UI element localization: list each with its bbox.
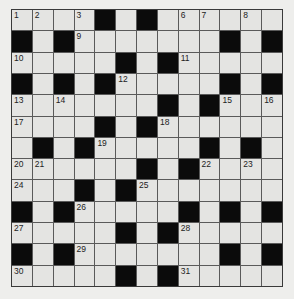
answer-cell[interactable] — [33, 31, 53, 51]
answer-cell[interactable] — [54, 223, 74, 243]
answer-cell[interactable] — [262, 159, 282, 179]
answer-cell[interactable] — [200, 31, 220, 51]
answer-cell[interactable] — [200, 202, 220, 222]
answer-cell[interactable]: 16 — [262, 95, 282, 115]
answer-cell[interactable] — [95, 266, 115, 286]
answer-cell[interactable] — [75, 117, 95, 137]
answer-cell[interactable] — [75, 95, 95, 115]
answer-cell[interactable] — [54, 53, 74, 73]
answer-cell[interactable] — [262, 180, 282, 200]
answer-cell[interactable] — [33, 74, 53, 94]
answer-cell[interactable]: 31 — [179, 266, 199, 286]
answer-cell[interactable] — [75, 266, 95, 286]
answer-cell[interactable] — [158, 31, 178, 51]
answer-cell[interactable] — [179, 95, 199, 115]
answer-cell[interactable] — [200, 74, 220, 94]
answer-cell[interactable] — [116, 95, 136, 115]
answer-cell[interactable] — [241, 202, 261, 222]
answer-cell[interactable] — [262, 53, 282, 73]
answer-cell[interactable] — [75, 74, 95, 94]
answer-cell[interactable] — [95, 180, 115, 200]
answer-cell[interactable] — [75, 159, 95, 179]
answer-cell[interactable] — [116, 117, 136, 137]
answer-cell[interactable] — [158, 180, 178, 200]
answer-cell[interactable]: 15 — [220, 95, 240, 115]
answer-cell[interactable]: 1 — [12, 10, 32, 30]
answer-cell[interactable]: 13 — [12, 95, 32, 115]
answer-cell[interactable] — [137, 244, 157, 264]
answer-cell[interactable] — [241, 53, 261, 73]
answer-cell[interactable] — [241, 95, 261, 115]
answer-cell[interactable] — [200, 266, 220, 286]
answer-cell[interactable] — [241, 74, 261, 94]
answer-cell[interactable] — [200, 117, 220, 137]
answer-cell[interactable] — [95, 31, 115, 51]
answer-cell[interactable] — [137, 74, 157, 94]
answer-cell[interactable] — [179, 244, 199, 264]
answer-cell[interactable] — [116, 31, 136, 51]
answer-cell[interactable] — [179, 138, 199, 158]
answer-cell[interactable] — [158, 159, 178, 179]
answer-cell[interactable] — [200, 53, 220, 73]
answer-cell[interactable]: 28 — [179, 223, 199, 243]
answer-cell[interactable] — [220, 10, 240, 30]
answer-cell[interactable]: 20 — [12, 159, 32, 179]
answer-cell[interactable] — [116, 244, 136, 264]
answer-cell[interactable] — [220, 53, 240, 73]
answer-cell[interactable] — [158, 138, 178, 158]
answer-cell[interactable]: 11 — [179, 53, 199, 73]
answer-cell[interactable]: 10 — [12, 53, 32, 73]
answer-cell[interactable]: 25 — [137, 180, 157, 200]
answer-cell[interactable] — [220, 138, 240, 158]
answer-cell[interactable] — [262, 138, 282, 158]
answer-cell[interactable]: 7 — [200, 10, 220, 30]
answer-cell[interactable] — [95, 159, 115, 179]
answer-cell[interactable] — [116, 159, 136, 179]
answer-cell[interactable] — [33, 180, 53, 200]
answer-cell[interactable]: 22 — [200, 159, 220, 179]
answer-cell[interactable] — [137, 266, 157, 286]
answer-cell[interactable] — [54, 266, 74, 286]
answer-cell[interactable]: 6 — [179, 10, 199, 30]
answer-cell[interactable] — [241, 117, 261, 137]
answer-cell[interactable] — [200, 223, 220, 243]
answer-cell[interactable]: 8 — [241, 10, 261, 30]
answer-cell[interactable]: 26 — [75, 202, 95, 222]
answer-cell[interactable] — [33, 223, 53, 243]
answer-cell[interactable] — [241, 180, 261, 200]
answer-cell[interactable] — [33, 117, 53, 137]
answer-cell[interactable] — [95, 244, 115, 264]
answer-cell[interactable] — [262, 10, 282, 30]
answer-cell[interactable]: 21 — [33, 159, 53, 179]
answer-cell[interactable] — [262, 117, 282, 137]
answer-cell[interactable]: 14 — [54, 95, 74, 115]
answer-cell[interactable]: 9 — [75, 31, 95, 51]
answer-cell[interactable] — [33, 266, 53, 286]
answer-cell[interactable]: 2 — [33, 10, 53, 30]
answer-cell[interactable] — [137, 138, 157, 158]
answer-cell[interactable] — [54, 138, 74, 158]
answer-cell[interactable] — [200, 244, 220, 264]
answer-cell[interactable] — [54, 159, 74, 179]
answer-cell[interactable]: 29 — [75, 244, 95, 264]
answer-cell[interactable]: 24 — [12, 180, 32, 200]
answer-cell[interactable] — [158, 202, 178, 222]
answer-cell[interactable] — [75, 53, 95, 73]
answer-cell[interactable] — [137, 223, 157, 243]
answer-cell[interactable] — [241, 244, 261, 264]
answer-cell[interactable] — [179, 117, 199, 137]
answer-cell[interactable] — [220, 117, 240, 137]
answer-cell[interactable]: 18 — [158, 117, 178, 137]
answer-cell[interactable] — [158, 244, 178, 264]
answer-cell[interactable] — [95, 202, 115, 222]
answer-cell[interactable] — [220, 159, 240, 179]
answer-cell[interactable] — [220, 266, 240, 286]
answer-cell[interactable] — [137, 53, 157, 73]
answer-cell[interactable] — [95, 95, 115, 115]
answer-cell[interactable] — [137, 202, 157, 222]
answer-cell[interactable] — [137, 31, 157, 51]
answer-cell[interactable] — [75, 223, 95, 243]
answer-cell[interactable] — [179, 180, 199, 200]
answer-cell[interactable] — [12, 138, 32, 158]
answer-cell[interactable] — [33, 202, 53, 222]
